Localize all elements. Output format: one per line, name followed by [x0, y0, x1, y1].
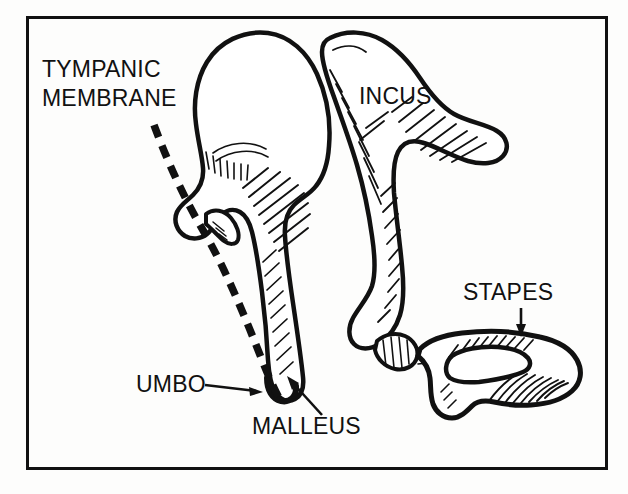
umbo-leader-arrow: [205, 385, 263, 396]
label-umbo: UMBO: [136, 371, 206, 397]
label-malleus: MALLEUS: [252, 413, 361, 439]
stapes-bone: [418, 331, 580, 418]
label-incus: INCUS: [359, 83, 432, 109]
ossicular-chain-figure: TYMPANIC MEMBRANE INCUS STAPES UMBO MALL…: [0, 0, 628, 494]
malleus-lateral-process: [206, 211, 239, 244]
label-tympanic-membrane-line1: TYMPANIC: [42, 56, 161, 82]
incus-lenticular-process: [375, 334, 417, 369]
label-stapes: STAPES: [463, 279, 553, 305]
label-tympanic-membrane-line2: MEMBRANE: [42, 85, 177, 111]
